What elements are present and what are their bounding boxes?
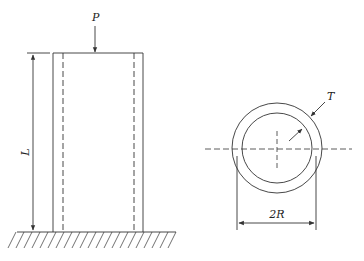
thickness-leader-inner xyxy=(289,129,302,141)
length-label: L xyxy=(19,148,32,156)
column-view xyxy=(8,26,176,248)
thickness-label: T xyxy=(327,90,336,103)
diameter-label: 2R xyxy=(268,208,284,221)
diagram-canvas: P L T 2R xyxy=(0,0,364,261)
ground-hatching xyxy=(8,232,176,248)
load-label: P xyxy=(91,11,100,24)
thickness-leader-outer xyxy=(311,102,325,116)
